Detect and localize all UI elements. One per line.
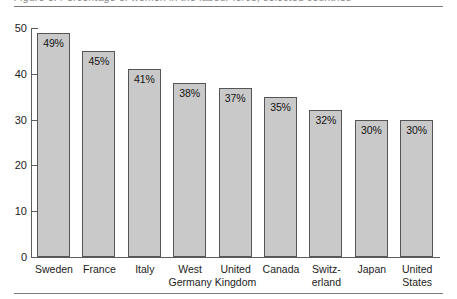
bar[interactable]: 49% — [37, 33, 70, 257]
bar-value-label: 38% — [174, 87, 205, 99]
category-label-line: erland — [299, 276, 353, 289]
bar-value-label: 41% — [129, 73, 160, 85]
y-axis-tick-label: 0 — [3, 257, 27, 258]
category-label-line: Kingdom — [209, 276, 263, 289]
bar-group[interactable]: 37%UnitedKingdom — [213, 0, 259, 299]
bar[interactable]: 41% — [128, 69, 161, 257]
bar-value-label: 37% — [220, 92, 251, 104]
bar-value-label: 30% — [401, 124, 432, 136]
bar-series: 49%Sweden45%France41%Italy38%WestGermany… — [31, 0, 440, 299]
bar-group[interactable]: 30%UnitedStates — [394, 0, 440, 299]
bar[interactable]: 38% — [173, 83, 206, 257]
bar[interactable]: 30% — [400, 120, 433, 257]
y-axis-tick-label: 20 — [3, 165, 27, 166]
bar-chart-plot: 01020304050 49%Sweden45%France41%Italy38… — [0, 0, 457, 299]
bar[interactable]: 37% — [219, 88, 252, 257]
y-axis-tick-label: 10 — [3, 211, 27, 212]
bar-group[interactable]: 41%Italy — [122, 0, 168, 299]
bar-value-label: 32% — [310, 114, 341, 126]
y-axis-tick-label: 40 — [3, 74, 27, 75]
bar-group[interactable]: 32%Switz-erland — [303, 0, 349, 299]
x-axis-category-label: UnitedStates — [390, 263, 444, 288]
y-axis-tick-label: 50 — [3, 28, 27, 29]
bar[interactable]: 32% — [309, 110, 342, 257]
bar[interactable]: 35% — [264, 97, 297, 257]
bar-value-label: 49% — [38, 37, 69, 49]
bar-group[interactable]: 45%France — [76, 0, 122, 299]
y-axis-tick-label: 30 — [3, 120, 27, 121]
category-label-line: United — [390, 263, 444, 276]
bar-value-label: 35% — [265, 101, 296, 113]
bar-value-label: 45% — [83, 55, 114, 67]
bar-group[interactable]: 30%Japan — [349, 0, 395, 299]
bar[interactable]: 30% — [355, 120, 388, 257]
bar-group[interactable]: 38%WestGermany — [167, 0, 213, 299]
category-label-line: States — [390, 276, 444, 289]
figure-container: Figure 3. Percentage of women in the lab… — [0, 0, 457, 299]
bar-group[interactable]: 35%Canada — [258, 0, 304, 299]
bar-value-label: 30% — [356, 124, 387, 136]
bar[interactable]: 45% — [82, 51, 115, 257]
bar-group[interactable]: 49%Sweden — [31, 0, 77, 299]
